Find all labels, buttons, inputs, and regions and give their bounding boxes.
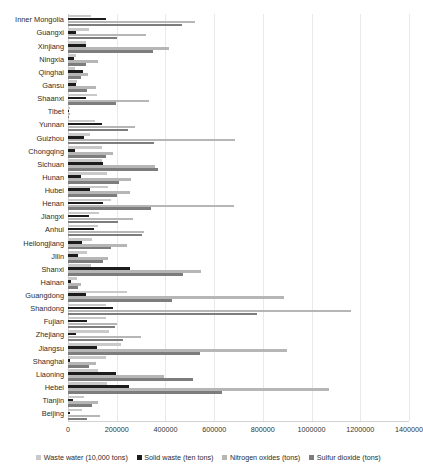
bar: [68, 24, 182, 27]
category-label-hebei: Hebei: [0, 384, 64, 392]
bar-group: [68, 395, 409, 408]
bar-group: [68, 290, 409, 303]
legend-label: Sulfur dioxide (tons): [317, 453, 381, 462]
bar-groups: [68, 14, 409, 421]
category-label-inner-mongolia: Inner Mongolia: [0, 16, 64, 24]
category-label-xinjiang: Xinjiang: [0, 43, 64, 51]
bar: [68, 181, 119, 184]
bar: [68, 116, 69, 119]
bar: [68, 299, 172, 302]
bar-group: [68, 14, 409, 27]
bar: [68, 50, 153, 53]
bar-group: [68, 250, 409, 263]
bar: [68, 273, 183, 276]
bar-group: [68, 329, 409, 342]
legend-label: Nitrogen oxides (tons): [230, 453, 300, 462]
x-tick-label: 1000000: [298, 425, 326, 435]
x-tick-label: 1200000: [346, 425, 374, 435]
bar-group: [68, 119, 409, 132]
bar: [68, 129, 128, 132]
category-label-hainan: Hainan: [0, 279, 64, 287]
bar-group: [68, 172, 409, 185]
plot-area: [68, 14, 409, 421]
bar-group: [68, 198, 409, 211]
bar-group: [68, 277, 409, 290]
bar: [68, 234, 142, 237]
bar: [68, 286, 78, 289]
category-label-anhui: Anhui: [0, 226, 64, 234]
bar: [68, 378, 193, 381]
legend-item[interactable]: Nitrogen oxides (tons): [222, 453, 300, 462]
chart-legend: Waste water (10,000 tons)Solid waste (te…: [0, 450, 417, 464]
category-label-shandong: Shandong: [0, 305, 64, 313]
x-axis-tick-labels: 0200000400000600000800000100000012000001…: [0, 425, 417, 439]
bar-group: [68, 145, 409, 158]
bar-group: [68, 211, 409, 224]
bar: [68, 404, 92, 407]
bar: [68, 194, 117, 197]
x-tick-label: 200000: [105, 425, 129, 435]
bar-group: [68, 40, 409, 53]
category-label-sichuan: Sichuan: [0, 161, 64, 169]
bar-group: [68, 53, 409, 66]
bar-group: [68, 67, 409, 80]
bar: [68, 247, 111, 250]
bar: [68, 155, 106, 158]
legend-swatch-icon: [36, 455, 41, 460]
category-label-gansu: Gansu: [0, 82, 64, 90]
gridline-7: [409, 14, 410, 421]
bar-group: [68, 408, 409, 421]
legend-swatch-icon: [309, 455, 314, 460]
legend-item[interactable]: Waste water (10,000 tons): [36, 453, 128, 462]
legend-label: Solid waste (ten tons): [144, 453, 213, 462]
category-label-jiangsu: Jiangsu: [0, 345, 64, 353]
x-axis-line: [68, 421, 409, 422]
category-label-guizhou: Guizhou: [0, 135, 64, 143]
bar: [68, 391, 222, 394]
category-label-chongqing: Chongqing: [0, 148, 64, 156]
bar: [68, 63, 86, 66]
bar: [68, 356, 106, 359]
bar-group: [68, 237, 409, 250]
category-label-shanxi: Shanxi: [0, 266, 64, 274]
bar-group: [68, 263, 409, 276]
bar-group: [68, 342, 409, 355]
bar-group: [68, 355, 409, 368]
bar: [68, 418, 87, 421]
bar: [68, 89, 87, 92]
category-label-liaoning: Liaoning: [0, 371, 64, 379]
category-label-qinghai: Qinghai: [0, 69, 64, 77]
x-tick-label: 1400000: [395, 425, 423, 435]
bar-group: [68, 132, 409, 145]
x-tick-label: 800000: [251, 425, 275, 435]
category-label-tianjin: Tianjin: [0, 397, 64, 405]
legend-swatch-icon: [137, 455, 142, 460]
bar-group: [68, 106, 409, 119]
bar-group: [68, 27, 409, 40]
x-tick-label: 0: [66, 425, 70, 435]
bar: [68, 260, 103, 263]
bar: [68, 352, 200, 355]
bar: [68, 365, 89, 368]
category-label-jiangxi: Jiangxi: [0, 213, 64, 221]
category-label-hubei: Hubei: [0, 187, 64, 195]
bar-group: [68, 185, 409, 198]
bar: [68, 207, 151, 210]
legend-swatch-icon: [222, 455, 227, 460]
legend-item[interactable]: Sulfur dioxide (tons): [309, 453, 380, 462]
category-label-guangdong: Guangdong: [0, 292, 64, 300]
category-label-beijing: Beijing: [0, 410, 64, 418]
category-label-shanghai: Shanghai: [0, 358, 64, 366]
category-label-guangxi: Guangxi: [0, 29, 64, 37]
category-label-tibet: Tibet: [0, 108, 64, 116]
bar: [68, 168, 158, 171]
category-axis-labels: Inner MongoliaGuangxiXinjiangNingxiaQing…: [0, 14, 64, 421]
bar-group: [68, 93, 409, 106]
legend-item[interactable]: Solid waste (ten tons): [137, 453, 214, 462]
category-label-zhejiang: Zhejiang: [0, 331, 64, 339]
bar-group: [68, 368, 409, 381]
category-label-shaanxi: Shaanxi: [0, 95, 64, 103]
category-label-jilin: Jilin: [0, 253, 64, 261]
bar-group: [68, 316, 409, 329]
x-tick-label: 600000: [202, 425, 226, 435]
